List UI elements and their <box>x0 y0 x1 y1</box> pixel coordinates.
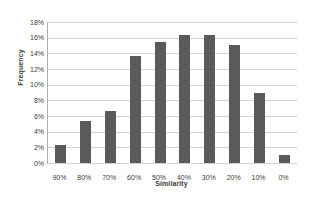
x-tick-slot: 20% <box>221 166 246 178</box>
bar <box>105 111 116 163</box>
x-tick-slot: 90% <box>47 166 72 178</box>
bar-slot <box>148 22 173 163</box>
bar-chart: Frequency 18%16%14%12%10%8%6%4%2%0% 90%8… <box>0 0 309 200</box>
gridline <box>48 163 297 164</box>
x-tick-slot: 30% <box>196 166 221 178</box>
y-axis-tick-label: 16% <box>22 34 44 41</box>
y-axis-tick-label: 8% <box>22 97 44 104</box>
bar-slot <box>172 22 197 163</box>
x-tick-slot: 80% <box>72 166 97 178</box>
y-axis-tick-label: 14% <box>22 50 44 57</box>
y-axis-tick-label: 2% <box>22 144 44 151</box>
bar <box>279 155 290 163</box>
bar <box>254 93 265 163</box>
x-tick-slot: 40% <box>171 166 196 178</box>
y-axis-tick-label: 10% <box>22 81 44 88</box>
x-axis-tick-labels: 90%80%70%60%50%40%30%20%10%0% <box>47 166 296 178</box>
bar <box>204 35 215 163</box>
bar <box>179 35 190 163</box>
bar-slot <box>48 22 73 163</box>
bar <box>80 121 91 163</box>
x-tick-slot: 70% <box>97 166 122 178</box>
x-axis-title: Similarity <box>47 180 296 187</box>
y-axis-tick-label: 6% <box>22 113 44 120</box>
bar-series <box>48 22 297 163</box>
x-tick-slot: 10% <box>246 166 271 178</box>
bar <box>130 56 141 163</box>
bar-slot <box>73 22 98 163</box>
x-tick-slot: 0% <box>271 166 296 178</box>
y-axis-tick-labels: 18%16%14%12%10%8%6%4%2%0% <box>22 22 44 163</box>
bar-slot <box>197 22 222 163</box>
bar <box>55 145 66 163</box>
bar <box>155 42 166 163</box>
y-axis-tick-label: 0% <box>22 160 44 167</box>
bar-slot <box>98 22 123 163</box>
x-tick-slot: 60% <box>122 166 147 178</box>
bar-slot <box>247 22 272 163</box>
plot-area <box>47 22 297 164</box>
y-axis-tick-label: 4% <box>22 128 44 135</box>
x-tick-slot: 50% <box>147 166 172 178</box>
bar-slot <box>123 22 148 163</box>
bar-slot <box>222 22 247 163</box>
y-axis-tick-label: 12% <box>22 66 44 73</box>
bar <box>229 45 240 163</box>
y-axis-tick-label: 18% <box>22 19 44 26</box>
bar-slot <box>272 22 297 163</box>
